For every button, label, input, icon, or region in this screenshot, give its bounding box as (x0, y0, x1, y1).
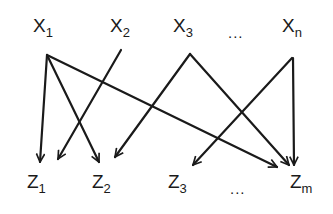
node-z1-base: Z (27, 171, 39, 192)
node-x1-sub: 1 (46, 25, 53, 40)
node-x3: X3 (173, 16, 193, 35)
node-z3-sub: 3 (180, 181, 187, 196)
node-x2: X2 (110, 16, 130, 35)
node-z2-sub: 2 (104, 181, 111, 196)
node-xn-base: X (282, 15, 295, 36)
node-zm-base: Z (290, 171, 302, 192)
node-z2-base: Z (92, 171, 104, 192)
node-z2: Z2 (92, 172, 111, 191)
node-x1-base: X (33, 15, 46, 36)
top-ellipsis: ... (228, 25, 244, 40)
node-z1: Z1 (27, 172, 46, 191)
bipartite-graph-diagram: X1 X2 X3 ... Xn Z1 Z2 Z3 ... Zm (0, 0, 333, 214)
edge-x1-z1 (40, 55, 47, 162)
edge-x3-z2 (115, 54, 190, 157)
node-x3-base: X (173, 15, 186, 36)
node-z1-sub: 1 (39, 181, 46, 196)
edge-xn-zm (293, 58, 294, 165)
node-x3-sub: 3 (186, 25, 193, 40)
bottom-ellipsis: ... (230, 181, 246, 196)
node-xn: Xn (282, 16, 302, 35)
edge-x1-z2 (47, 55, 99, 162)
node-x2-base: X (110, 15, 123, 36)
node-zm-sub: m (302, 181, 313, 196)
node-zm: Zm (290, 172, 312, 191)
node-x2-sub: 2 (123, 25, 130, 40)
node-z3: Z3 (168, 172, 187, 191)
node-z3-base: Z (168, 171, 180, 192)
node-x1: X1 (33, 16, 53, 35)
node-xn-sub: n (295, 25, 302, 40)
